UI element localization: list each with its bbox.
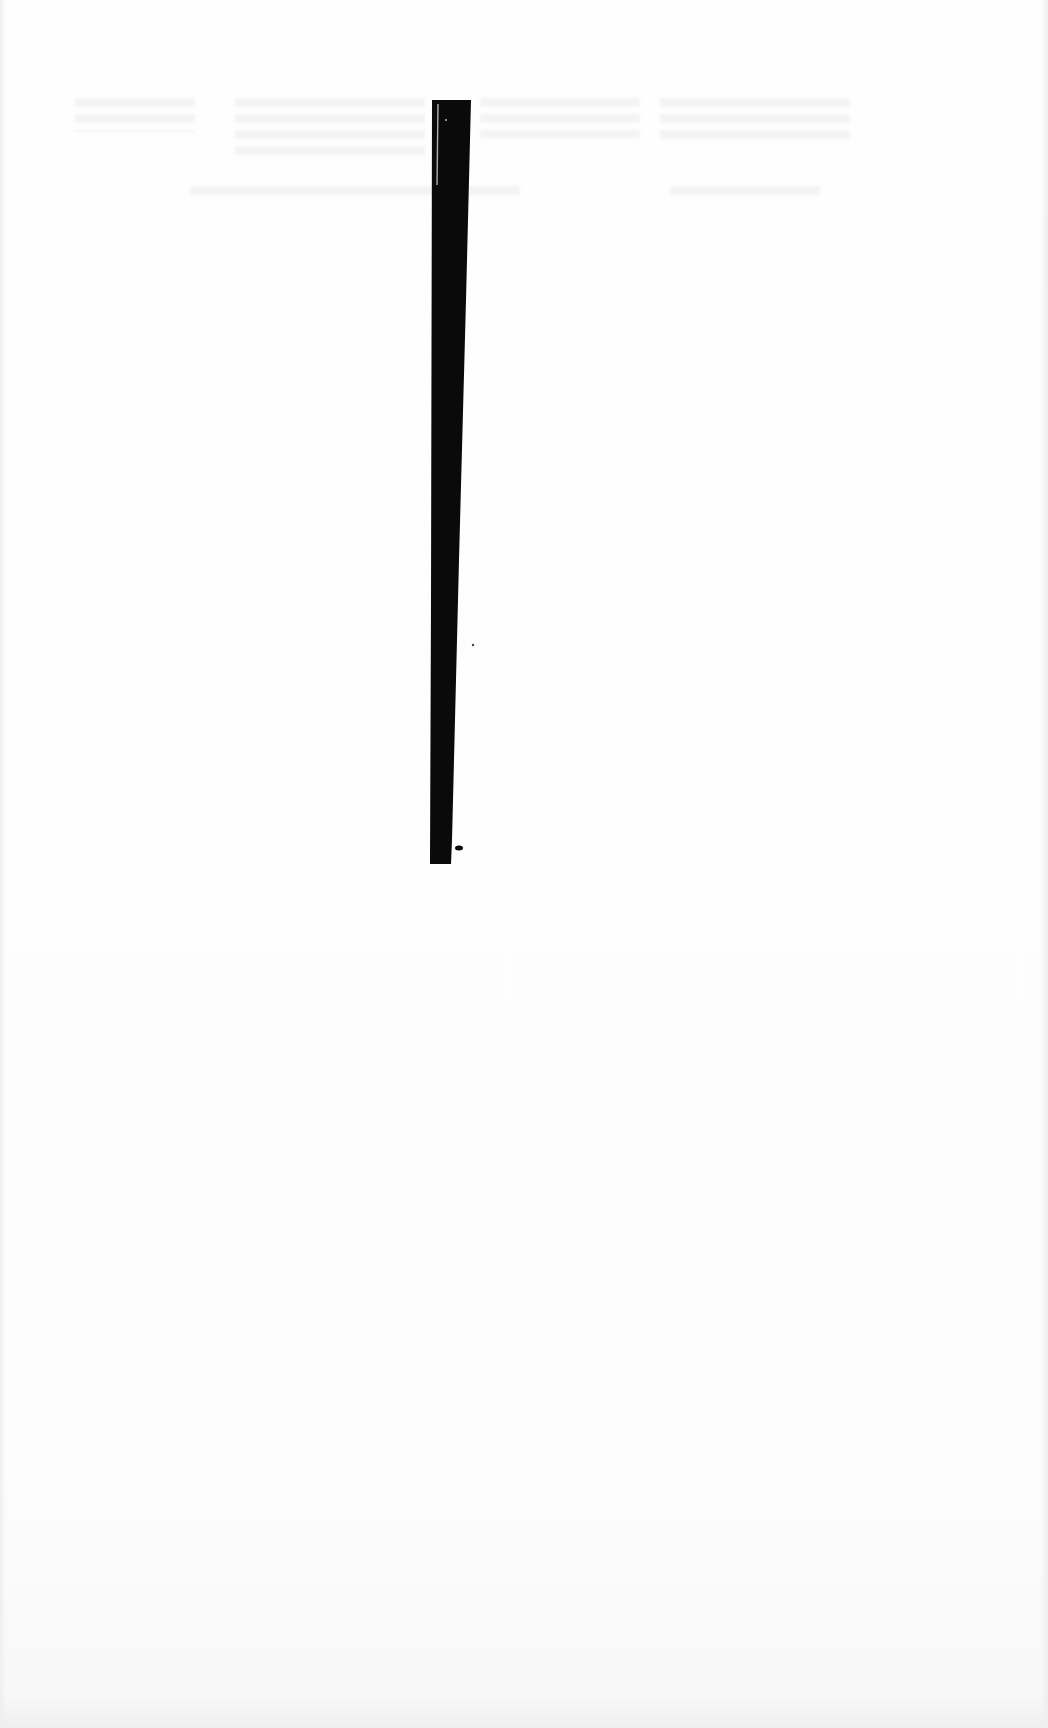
scan-edge-left: [0, 0, 6, 1728]
scanned-page: [0, 0, 1048, 1728]
illegible-ghost-text: [235, 98, 425, 158]
illegible-ghost-text: [660, 98, 850, 142]
redaction-bar: [0, 0, 1048, 1728]
illegible-ghost-text: [480, 98, 640, 138]
illegible-ghost-text: [75, 98, 195, 132]
illegible-ghost-text: [670, 186, 820, 198]
scan-edge-bottom: [0, 1698, 1048, 1728]
illegible-ghost-text: [190, 186, 520, 198]
redaction-bar-shape: [0, 0, 1048, 1728]
scan-edge-right: [1040, 0, 1048, 1728]
